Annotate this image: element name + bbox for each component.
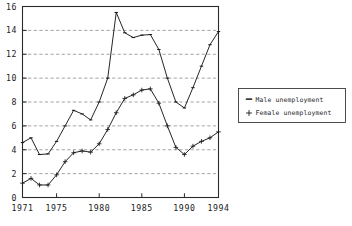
y-tick-label-16: 16	[6, 2, 17, 12]
y-tick-label-12: 12	[6, 49, 17, 59]
y-tick-label-10: 10	[6, 73, 17, 83]
y-tick-label-4: 4	[11, 145, 17, 155]
chart-canvas: 0246810121416197119751980198519901994Mal…	[0, 0, 352, 226]
series-line-male-unemployment	[23, 12, 219, 154]
y-tick-label-6: 6	[11, 121, 17, 131]
legend-label-1: Female unemployment	[256, 109, 332, 117]
x-axis-group: 197119751980198519901994	[11, 193, 229, 213]
gridlines-group	[23, 30, 219, 173]
series-male-unemployment	[21, 12, 220, 154]
x-tick-label-1980: 1980	[88, 203, 110, 213]
y-axis-group: 0246810121416	[6, 2, 27, 203]
series-markers-male-unemployment	[21, 12, 220, 154]
legend-entry-1[interactable]: Female unemployment	[246, 109, 331, 117]
x-tick-label-1975: 1975	[46, 203, 68, 213]
x-tick-label-1971: 1971	[11, 203, 33, 213]
x-tick-label-1985: 1985	[131, 203, 153, 213]
x-tick-label-1990: 1990	[173, 203, 195, 213]
legend-label-0: Male unemployment	[256, 96, 324, 104]
unemployment-line-chart: 0246810121416197119751980198519901994Mal…	[0, 0, 352, 226]
y-tick-label-8: 8	[11, 97, 17, 107]
x-tick-label-1994: 1994	[207, 203, 229, 213]
y-tick-label-14: 14	[6, 25, 17, 35]
y-tick-label-2: 2	[11, 169, 17, 179]
y-tick-label-0: 0	[11, 193, 17, 203]
legend-entry-0[interactable]: Male unemployment	[246, 96, 324, 104]
legend: Male unemploymentFemale unemployment	[239, 89, 346, 123]
series-line-female-unemployment	[23, 89, 219, 185]
